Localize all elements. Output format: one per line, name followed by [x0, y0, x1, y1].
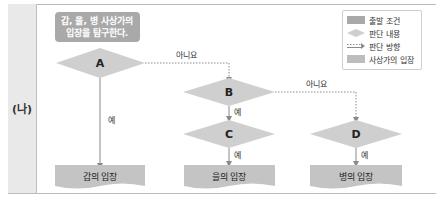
position-swatch-icon — [347, 55, 365, 63]
start-text-line1: 갑, 을, 병 사상가의 — [61, 15, 133, 26]
diamond-swatch-icon — [347, 29, 365, 37]
edge-b-no — [275, 92, 356, 120]
position-eul-label: 을의 입장 — [212, 171, 247, 182]
edge-a-no — [145, 63, 229, 80]
position-gap-label: 갑의 입장 — [83, 171, 118, 182]
legend-item-position: 사상가의 입장 — [347, 53, 414, 65]
legend-item-start: 출발 조건 — [347, 14, 400, 26]
decision-c-label: C — [225, 128, 233, 141]
arrow-swatch-icon — [347, 42, 365, 50]
position-byeong-label: 병의 입장 — [339, 171, 374, 182]
edge-a-yes-label: 예 — [108, 115, 115, 125]
edge-b-no-label: 아니요 — [306, 79, 327, 89]
legend-label: 출발 조건 — [369, 15, 400, 26]
edge-d-yes-label: 예 — [361, 150, 368, 160]
edge-b-yes-label: 예 — [234, 107, 241, 117]
decision-d-label: D — [351, 128, 360, 141]
legend: 출발 조건 판단 내용 판단 방향 사상가의 입장 — [342, 10, 422, 70]
start-text-line2: 입장을 탐구한다. — [66, 27, 129, 38]
start-box-swatch-icon — [347, 16, 365, 24]
diagram-frame: (나) 갑, 을, 병 사상가의 입장을 탐구한다. A 아니요 예 B 아니요… — [0, 0, 436, 198]
legend-label: 사상가의 입장 — [369, 54, 414, 65]
edge-c-yes-label: 예 — [234, 150, 241, 160]
decision-a-label: A — [96, 57, 105, 70]
legend-item-diamond: 판단 내용 — [347, 27, 400, 39]
legend-label: 판단 방향 — [369, 41, 400, 52]
legend-item-arrow: 판단 방향 — [347, 40, 400, 52]
legend-label: 판단 내용 — [369, 28, 400, 39]
decision-b-label: B — [225, 86, 233, 99]
edge-a-no-label: 아니요 — [176, 50, 197, 60]
